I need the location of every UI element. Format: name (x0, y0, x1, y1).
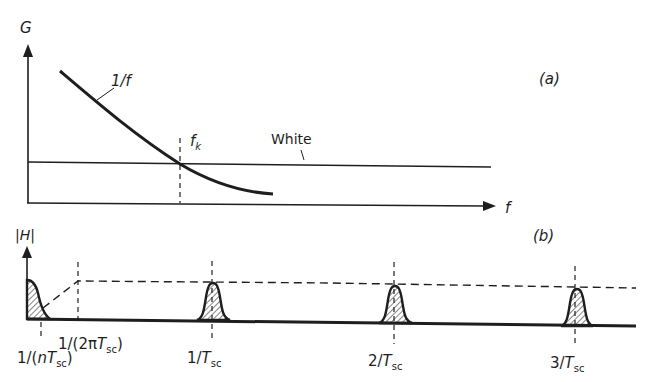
tick-label-2pi: 1/(2πTsc) (58, 335, 123, 355)
f-axis-label: f (505, 199, 513, 217)
pulse-dc (27, 280, 50, 319)
g-axis-arrow-icon (23, 44, 33, 57)
corner-frequency-label: fk (190, 132, 202, 152)
one-over-f-curve (60, 71, 273, 194)
white-label: White (271, 131, 312, 147)
one-over-f-label: 1/f (111, 72, 134, 90)
panel-b-tag: (b) (533, 227, 554, 245)
white-noise-line (28, 162, 491, 167)
h-axis-arrow-icon (22, 246, 32, 258)
tick-label-1: 1/Tsc (187, 349, 222, 369)
panel-a-tag: (a) (539, 70, 560, 88)
pulse-2 (379, 286, 412, 323)
panel-b: |H| (b) 1/(nTsc) 1/(2πTsc) 1/Tsc 2/Tsc 3… (15, 227, 636, 374)
h-baseline (27, 319, 636, 326)
filter-envelope (43, 281, 636, 308)
white-leader (301, 150, 304, 160)
g-axis-label: G (20, 19, 32, 37)
pulse-3 (561, 289, 593, 326)
f-axis (27, 203, 485, 206)
pulse-1 (197, 283, 230, 320)
panel-a: G f White 1/f fk (a) (20, 19, 560, 217)
h-axis-label: |H| (15, 227, 35, 244)
tick-label-2: 2/Tsc (368, 352, 403, 372)
one-over-f-leader (97, 88, 114, 100)
f-axis-arrow-icon (483, 201, 496, 211)
tick-label-3: 3/Tsc (550, 354, 585, 374)
noise-spectrum-diagram: G f White 1/f fk (a) |H| (b) (0, 0, 646, 382)
